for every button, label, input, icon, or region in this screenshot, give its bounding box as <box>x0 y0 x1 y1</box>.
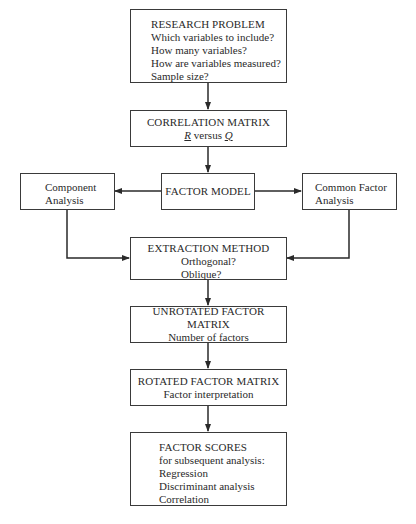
component-analysis-line: Component <box>45 181 114 194</box>
research-problem-line: Sample size? <box>151 70 286 83</box>
node-rotated-factor-matrix: ROTATED FACTOR MATRIX Factor interpretat… <box>130 369 287 406</box>
arrow-common-to-extraction <box>287 210 349 258</box>
node-extraction-method: EXTRACTION METHOD Orthogonal? Oblique? <box>130 237 287 280</box>
common-factor-analysis-line: Analysis <box>315 194 396 207</box>
unrotated-factor-matrix-title: UNROTATED FACTOR MATRIX <box>131 305 286 331</box>
node-unrotated-factor-matrix: UNROTATED FACTOR MATRIX Number of factor… <box>130 306 287 343</box>
factor-scores-line: Correlation <box>159 493 286 506</box>
factor-scores-title: FACTOR SCORES <box>159 441 286 454</box>
node-correlation-matrix: CORRELATION MATRIX R versus Q <box>130 110 287 147</box>
research-problem-title: RESEARCH PROBLEM <box>151 18 286 31</box>
versus-label: versus <box>191 129 225 141</box>
extraction-method-line: Oblique? <box>131 268 286 281</box>
correlation-matrix-title: CORRELATION MATRIX <box>131 116 286 129</box>
node-factor-scores: FACTOR SCORES for subsequent analysis: R… <box>130 432 287 506</box>
node-factor-model: FACTOR MODEL <box>161 173 255 210</box>
common-factor-analysis-line: Common Factor <box>315 181 396 194</box>
factor-scores-line: for subsequent analysis: <box>159 454 286 467</box>
factor-scores-line: Discriminant analysis <box>159 480 286 493</box>
node-research-problem: RESEARCH PROBLEM Which variables to incl… <box>130 9 287 83</box>
research-problem-line: How many variables? <box>151 44 286 57</box>
node-common-factor-analysis: Common Factor Analysis <box>302 173 397 210</box>
node-component-analysis: Component Analysis <box>20 173 115 210</box>
component-analysis-line: Analysis <box>45 194 114 207</box>
arrow-component-to-extraction <box>67 210 129 258</box>
factor-scores-line: Regression <box>159 467 286 480</box>
extraction-method-title: EXTRACTION METHOD <box>131 242 286 255</box>
correlation-matrix-subtitle: R versus Q <box>131 129 286 142</box>
q-label: Q <box>225 129 233 141</box>
extraction-method-line: Orthogonal? <box>131 255 286 268</box>
research-problem-line: How are variables measured? <box>151 57 286 70</box>
rotated-factor-matrix-line: Factor interpretation <box>131 388 286 401</box>
unrotated-factor-matrix-line: Number of factors <box>131 331 286 344</box>
rotated-factor-matrix-title: ROTATED FACTOR MATRIX <box>131 375 286 388</box>
research-problem-line: Which variables to include? <box>151 31 286 44</box>
factor-model-title: FACTOR MODEL <box>162 185 254 198</box>
